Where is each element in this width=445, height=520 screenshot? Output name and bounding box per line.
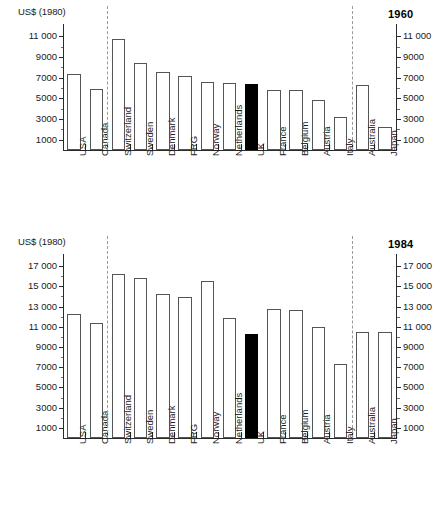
x-axis-label-belgium: Belgium bbox=[300, 122, 310, 156]
y-tick-label-right: 15 000 bbox=[403, 281, 432, 291]
y-tick-label-left: 9000 bbox=[36, 342, 57, 352]
y-minor-tick-left bbox=[61, 67, 64, 68]
y-tick-right bbox=[397, 36, 401, 37]
y-tick-left bbox=[59, 119, 63, 120]
bar-uk bbox=[245, 334, 258, 438]
y-minor-tick-left bbox=[61, 129, 64, 130]
y-minor-tick-left bbox=[61, 88, 64, 89]
y-tick-right bbox=[397, 286, 401, 287]
y-tick-label-right: 11 000 bbox=[403, 322, 431, 332]
y-tick-right bbox=[397, 266, 401, 267]
y-tick-label-right: 5000 bbox=[403, 93, 424, 103]
group-divider bbox=[352, 6, 353, 150]
x-axis-label-netherlands: Netherlands bbox=[234, 105, 244, 156]
y-minor-tick-right bbox=[397, 296, 400, 297]
y-tick-right bbox=[397, 307, 401, 308]
y-tick-label-right: 13 000 bbox=[403, 302, 432, 312]
y-tick-label-right: 1000 bbox=[403, 135, 424, 145]
x-axis-label-austria: Austria bbox=[322, 414, 332, 444]
y-minor-tick-right bbox=[397, 109, 400, 110]
y-tick-label-left: 5000 bbox=[36, 93, 57, 103]
bar-usa bbox=[67, 314, 80, 438]
x-axis-label-frg: FRG bbox=[189, 136, 199, 156]
y-tick-left bbox=[59, 347, 63, 348]
x-axis-label-norway: Norway bbox=[211, 124, 221, 156]
y-tick-label-right: 3000 bbox=[403, 403, 424, 413]
x-axis-label-australia: Australia bbox=[367, 407, 377, 444]
y-minor-tick-left bbox=[61, 317, 64, 318]
y-tick-label-left: 7000 bbox=[36, 362, 57, 372]
y-minor-tick-left bbox=[61, 109, 64, 110]
y-minor-tick-right bbox=[397, 88, 400, 89]
y-tick-left bbox=[59, 78, 63, 79]
y-minor-tick-right bbox=[397, 377, 400, 378]
x-axis-label-norway: Norway bbox=[211, 412, 221, 444]
y-tick-right bbox=[397, 78, 401, 79]
x-axis-label-sweden: Sweden bbox=[145, 122, 155, 156]
y-minor-tick-left bbox=[61, 337, 64, 338]
y-tick-left bbox=[59, 266, 63, 267]
y-tick-label-right: 9000 bbox=[403, 342, 424, 352]
y-tick-label-left: 9000 bbox=[36, 52, 57, 62]
y-minor-tick-right bbox=[397, 67, 400, 68]
y-tick-label-left: 13 000 bbox=[28, 302, 57, 312]
chart-1960: US$ (1980) 1960 100010003000300050005000… bbox=[0, 0, 445, 230]
y-tick-left bbox=[59, 98, 63, 99]
y-tick-label-left: 5000 bbox=[36, 382, 57, 392]
y-tick-label-left: 1000 bbox=[36, 135, 57, 145]
group-divider bbox=[107, 236, 108, 438]
x-axis-label-denmark: Denmark bbox=[167, 405, 177, 444]
y-tick-label-right: 3000 bbox=[403, 114, 424, 124]
y-axis-right bbox=[396, 254, 397, 438]
y-tick-left bbox=[59, 307, 63, 308]
x-axis-label-uk: UK bbox=[256, 143, 266, 156]
x-axis-label-japan: Japan bbox=[389, 130, 399, 156]
x-axis-label-netherlands: Netherlands bbox=[234, 393, 244, 444]
x-axis-label-usa: USA bbox=[78, 424, 88, 444]
x-axis-label-australia: Australia bbox=[367, 119, 377, 156]
y-tick-left bbox=[59, 286, 63, 287]
y-minor-tick-left bbox=[61, 418, 64, 419]
x-axis-label-frg: FRG bbox=[189, 424, 199, 444]
y-minor-tick-right bbox=[397, 398, 400, 399]
y-tick-left bbox=[59, 57, 63, 58]
x-axis-label-france: France bbox=[278, 126, 288, 156]
y-minor-tick-left bbox=[61, 296, 64, 297]
y-axis-left bbox=[63, 24, 64, 150]
y-minor-tick-right bbox=[397, 47, 400, 48]
y-minor-tick-left bbox=[61, 276, 64, 277]
x-axis-label-austria: Austria bbox=[322, 126, 332, 156]
group-divider bbox=[107, 6, 108, 150]
y-tick-right bbox=[397, 119, 401, 120]
y-tick-label-right: 7000 bbox=[403, 73, 424, 83]
y-tick-label-left: 11 000 bbox=[29, 31, 57, 41]
bar-uk bbox=[245, 84, 258, 150]
y-tick-right bbox=[397, 347, 401, 348]
x-axis-label-denmark: Denmark bbox=[167, 117, 177, 156]
chart-1984: US$ (1980) 1984 100010003000300050005000… bbox=[0, 230, 445, 520]
y-tick-label-right: 5000 bbox=[403, 382, 424, 392]
y-tick-label-right: 7000 bbox=[403, 362, 424, 372]
group-divider bbox=[352, 236, 353, 438]
y-minor-tick-left bbox=[61, 398, 64, 399]
x-axis-label-usa: USA bbox=[78, 136, 88, 156]
bar-frg bbox=[178, 297, 191, 438]
y-tick-label-right: 1000 bbox=[403, 423, 424, 433]
y-tick-left bbox=[59, 387, 63, 388]
y-tick-label-left: 1000 bbox=[36, 423, 57, 433]
x-axis-label-belgium: Belgium bbox=[300, 410, 310, 444]
y-minor-tick-left bbox=[61, 47, 64, 48]
y-tick-right bbox=[397, 387, 401, 388]
y-minor-tick-right bbox=[397, 317, 400, 318]
y-minor-tick-right bbox=[397, 276, 400, 277]
x-axis-label-japan: Japan bbox=[389, 418, 399, 444]
y-tick-label-left: 11 000 bbox=[29, 322, 57, 332]
y-tick-label-left: 3000 bbox=[36, 114, 57, 124]
x-axis-label-france: France bbox=[278, 414, 288, 444]
y-tick-right bbox=[397, 408, 401, 409]
x-axis-label-sweden: Sweden bbox=[145, 410, 155, 444]
x-axis-label-uk: UK bbox=[256, 431, 266, 444]
y-tick-label-right: 11 000 bbox=[403, 31, 431, 41]
y-minor-tick-right bbox=[397, 357, 400, 358]
y-tick-right bbox=[397, 57, 401, 58]
